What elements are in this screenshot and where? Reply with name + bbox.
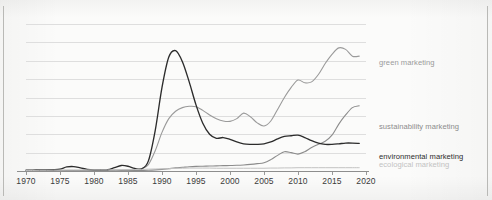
series-line-environmental xyxy=(26,50,359,170)
series-label-green: green marketing xyxy=(379,58,435,67)
series-label-ecological: ecological marketing xyxy=(379,160,449,169)
series-line-ecological xyxy=(26,168,359,171)
series-curves xyxy=(0,0,492,200)
series-label-sustainability: sustainability marketing xyxy=(379,122,459,131)
chart-plot-area: 1970197519801985199019952000200520102015… xyxy=(0,0,492,200)
series-line-sustainability xyxy=(26,106,359,171)
series-line-green xyxy=(26,48,359,171)
